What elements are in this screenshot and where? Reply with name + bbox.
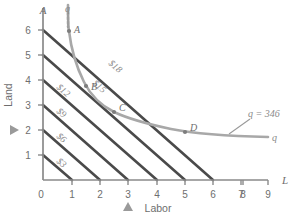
point-label-b: B [91, 81, 97, 92]
x-tick-label-3: 3 [125, 189, 131, 200]
data-point-d [183, 130, 187, 134]
x-tick-label-0: 0 [38, 189, 44, 200]
data-point-c [112, 110, 116, 114]
isocost-label-12: $12 [55, 82, 73, 99]
y-tick-label-1: 1 [25, 150, 31, 161]
x-tick-label-8: 8 [240, 189, 246, 200]
point-label-a: A [73, 24, 81, 35]
x-tick-label-4: 4 [154, 189, 160, 200]
y-axis-title: Land [2, 83, 14, 107]
isocost-line-6 [43, 130, 100, 180]
y-tick-label-4: 4 [25, 75, 31, 86]
y-axis-symbol: A [39, 4, 47, 16]
labor-marker-triangle-up-icon [123, 202, 133, 211]
isocost-line-18 [43, 30, 213, 180]
chart-canvas: 6 5 4 3 2 1 0 1 2 3 4 5 6 7 8 8 A L $18 … [0, 0, 298, 215]
point-label-d: D [189, 122, 198, 133]
isoquant-curve [68, 5, 268, 137]
x-tick-label-2: 2 [97, 189, 103, 200]
y-tick-label-2: 2 [25, 125, 31, 136]
data-point-a [67, 29, 71, 33]
x-tick-label-1: 1 [69, 189, 75, 200]
q-value-leader-line [229, 119, 250, 134]
isoquant-label-top: q [65, 3, 70, 14]
y-tick-label-6: 6 [25, 25, 31, 36]
y-tick-label-5: 5 [25, 50, 31, 61]
isoquant-isocost-chart: 6 5 4 3 2 1 0 1 2 3 4 5 6 7 8 8 A L $18 … [0, 0, 298, 215]
y-tick-label-3: 3 [25, 100, 31, 111]
x-tick-label-6: 6 [210, 189, 216, 200]
x-tick-label-9: 9 [265, 189, 271, 200]
x-axis-title: Labor [145, 202, 172, 214]
isocost-label-18: $18 [107, 58, 125, 75]
data-point-b [84, 84, 88, 88]
isoquant-label-right: q [272, 132, 277, 143]
point-label-c: C [119, 102, 126, 113]
land-marker-triangle-right-icon [10, 125, 19, 135]
isoquant-value-label: q = 346 [248, 108, 280, 119]
x-tick-label-5: 5 [182, 189, 188, 200]
x-axis-symbol: L [281, 174, 288, 186]
isocost-line-3 [43, 155, 72, 180]
